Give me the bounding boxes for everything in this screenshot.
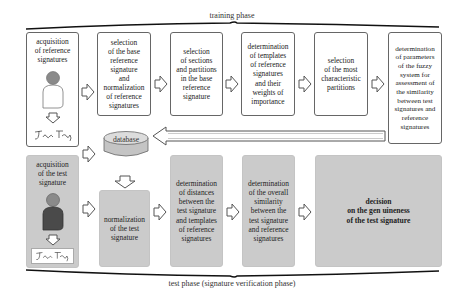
signature-sample-reference (31, 126, 74, 142)
right-arrow-icon (298, 75, 312, 93)
down-arrow-icon (114, 175, 136, 189)
signature-sample-test (31, 248, 74, 264)
database-label: database (102, 135, 150, 144)
step-label: decision on the gen uineness of the test… (347, 197, 411, 225)
step-selection-characteristic: selection of the most characteristic par… (314, 32, 368, 116)
person-icon (38, 70, 68, 110)
right-arrow-icon (81, 83, 95, 101)
right-arrow-icon (82, 200, 96, 218)
step-determination-fuzzy: determination of parameters of the fuzzy… (388, 32, 442, 144)
training-phase-brace (25, 21, 440, 31)
step-determination-distances: determination of distances between the t… (170, 155, 223, 267)
right-arrow-icon (154, 75, 168, 93)
step-determination-templates: determination of templates of reference … (241, 32, 295, 116)
step-label: determination of templates of reference … (247, 42, 288, 105)
right-arrow-icon (153, 203, 167, 221)
step-normalization-test: normalization of the test signature (99, 190, 150, 267)
step-label: determination of distances between the t… (176, 179, 217, 242)
step-label: acquisition of reference signatures (35, 37, 71, 64)
right-arrow-icon (226, 203, 240, 221)
step-determination-similarity: determination of the overall similarity … (242, 155, 295, 267)
step-label: acquisition of the test signature (36, 160, 68, 187)
step-selection-base: selection of the base reference signatur… (97, 32, 151, 116)
training-phase-label: training phase (0, 11, 464, 20)
right-arrow-icon (371, 75, 385, 93)
right-arrow-icon (82, 145, 96, 163)
signature-icon (32, 127, 75, 143)
test-phase-label: test phase (signature verification phase… (0, 279, 464, 288)
right-arrow-icon (298, 203, 312, 221)
test-phase-brace (25, 268, 440, 278)
step-selection-sections: selection of sections and partitions in … (170, 32, 223, 116)
step-label: selection of sections and partitions in … (176, 47, 216, 101)
step-label: selection of the most characteristic par… (321, 56, 360, 92)
down-arrow-icon (45, 112, 61, 124)
signature-icon (32, 249, 73, 263)
down-arrow-icon (45, 234, 61, 246)
right-arrow-icon (225, 75, 239, 93)
step-label: determination of the overall similarity … (248, 179, 289, 242)
step-label: determination of parameters of the fuzzy… (395, 45, 436, 131)
step-label: normalization of the test signature (104, 215, 145, 242)
step-decision: decision on the gen uineness of the test… (315, 155, 442, 267)
person-icon (38, 192, 68, 232)
left-arrow-to-database-icon (152, 126, 387, 146)
step-label: selection of the base reference signatur… (103, 38, 144, 110)
